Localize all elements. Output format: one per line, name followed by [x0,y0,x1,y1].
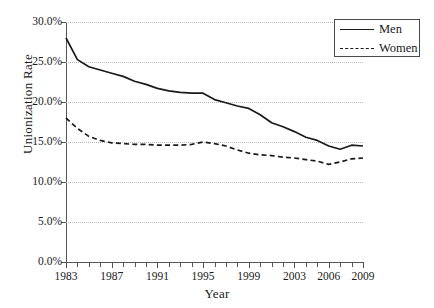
x-axis-tick [340,262,341,267]
legend-label: Women [379,42,418,55]
x-axis-title: Year [0,286,434,302]
x-axis-tick [226,262,227,267]
x-axis-tick-label: 1987 [90,270,134,282]
x-axis-tick [66,262,67,268]
x-axis-tick-label: 1995 [181,270,225,282]
legend-label: Men [379,23,402,36]
y-axis-tick-label: 0.0% [2,256,62,268]
y-axis-tick-label: 15.0% [2,136,62,148]
x-axis-tick [100,262,101,267]
x-axis-tick [249,262,250,268]
legend-swatch-solid-icon [340,29,374,30]
x-axis-tick [77,262,78,267]
x-axis-tick [203,262,204,268]
x-axis-tick [123,262,124,267]
x-axis-tick [215,262,216,267]
x-axis-tick [237,262,238,267]
series-line-men [66,38,363,149]
chart-figure: Unionization Rate Year 0.0%5.0%10.0%15.0… [0,0,434,308]
x-axis-tick-label: 1991 [135,270,179,282]
chart-legend: Men Women [334,19,420,57]
x-axis-tick [89,262,90,267]
x-axis-tick [112,262,113,268]
x-axis-tick [157,262,158,268]
x-axis-tick [272,262,273,267]
x-axis-tick [180,262,181,267]
x-axis-tick [192,262,193,267]
y-axis-tick-label: 5.0% [2,216,62,228]
x-axis-tick-label: 1999 [227,270,271,282]
x-axis-tick [169,262,170,267]
x-axis-tick [352,262,353,267]
legend-entry-women: Women [335,39,421,58]
legend-entry-men: Men [335,20,421,39]
x-axis-tick-label: 1983 [44,270,88,282]
legend-swatch-dashed-icon [340,48,374,49]
x-axis-tick [294,262,295,268]
x-axis-tick [363,262,364,268]
x-axis-tick [329,262,330,268]
y-axis-tick-label: 10.0% [2,176,62,188]
x-axis-tick [146,262,147,267]
y-axis-tick-label: 20.0% [2,96,62,108]
x-axis-tick [306,262,307,267]
y-axis-tick-label: 30.0% [2,16,62,28]
x-axis-tick-label: 2009 [341,270,385,282]
x-axis-tick [317,262,318,267]
x-axis-tick [135,262,136,267]
x-axis-tick [260,262,261,267]
series-lines [66,22,363,262]
plot-area [66,22,363,262]
y-axis-tick-label: 25.0% [2,56,62,68]
x-axis-tick [283,262,284,267]
